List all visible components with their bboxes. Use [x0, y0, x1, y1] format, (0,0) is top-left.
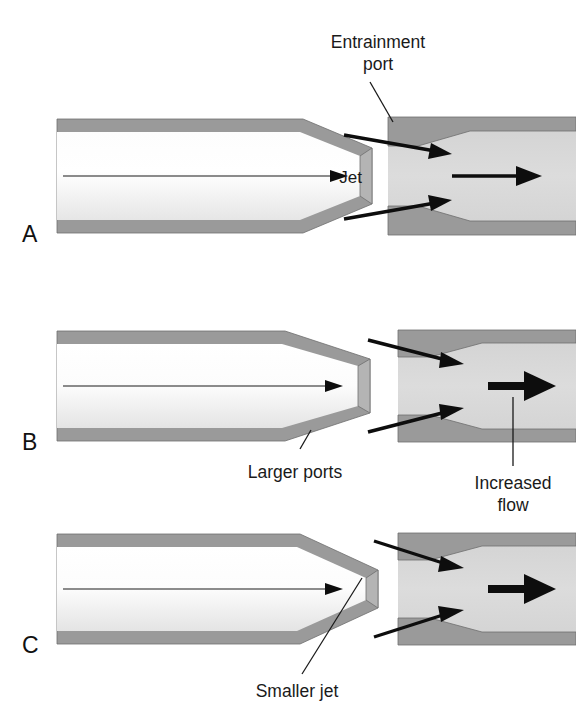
jet-label: Jet: [339, 168, 362, 187]
jet-entrainment-figure: Jet A Entrainment port: [0, 0, 576, 705]
entrainment-port-label-line1: Entrainment: [331, 32, 425, 52]
panel-c: C: [22, 533, 576, 658]
panel-letter-a: A: [22, 221, 38, 247]
entrainment-port-label-line2: port: [363, 54, 393, 74]
panel-a: Jet A: [22, 117, 576, 247]
increased-flow-label-line1: Increased: [475, 473, 552, 493]
panel-letter-b: B: [22, 429, 37, 455]
larger-ports-label: Larger ports: [248, 462, 343, 482]
increased-flow-label-line2: flow: [497, 495, 528, 515]
nozzle-tip-face: [358, 359, 370, 413]
panel-letter-c: C: [22, 632, 39, 658]
smaller-jet-label: Smaller jet: [256, 681, 339, 701]
panel-b: B: [22, 330, 576, 455]
